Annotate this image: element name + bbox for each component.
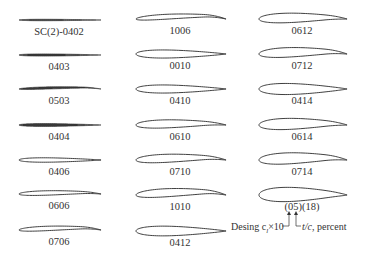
airfoil-label: 0010: [130, 60, 230, 71]
airfoil-label: 0710: [130, 166, 230, 177]
airfoil-outline: [19, 158, 101, 162]
airfoil-label: 0404: [9, 131, 109, 142]
airfoil-label: 0614: [252, 131, 352, 142]
airfoil-outline: [19, 54, 101, 56]
airfoil-label: 1010: [130, 201, 230, 212]
airfoil-outline: [136, 85, 226, 93]
thickness-suffix: , percent: [312, 221, 346, 232]
airfoil-label: (05)(18): [252, 201, 352, 212]
airfoil-label: 0403: [9, 61, 109, 72]
airfoil-outline: [259, 187, 347, 201]
airfoil-label: 0612: [252, 25, 352, 36]
airfoil-label: 0410: [130, 95, 230, 106]
thickness-ratio-text: t/c: [302, 221, 312, 232]
airfoil-outline: [19, 87, 101, 90]
airfoil-outline: [259, 13, 347, 23]
airfoil-outline: [136, 14, 226, 20]
airfoil-label: 0412: [130, 237, 230, 248]
airfoil-label: 0606: [9, 200, 109, 211]
airfoil-outline: [136, 120, 226, 128]
airfoil-label: SC(2)-0402: [9, 26, 109, 37]
airfoil-outline: [259, 83, 347, 94]
airfoil-outline: [136, 226, 226, 236]
airfoil-label: 1006: [130, 25, 230, 36]
airfoil-outline: [136, 189, 226, 198]
thickness-annotation: t/c, percent: [302, 221, 346, 232]
airfoil-outline: [259, 153, 347, 164]
airfoil-outline: [259, 48, 347, 58]
airfoil-label: 0712: [252, 60, 352, 71]
airfoil-label: 0714: [252, 166, 352, 177]
airfoil-label: 0406: [9, 166, 109, 177]
airfoil-label: 0610: [130, 131, 230, 142]
airfoil-label: 0503: [9, 95, 109, 106]
airfoil-outline: [19, 191, 101, 196]
design-cl-text: Desing c: [231, 221, 266, 232]
airfoil-outline: [19, 19, 101, 20]
airfoil-outline: [136, 50, 226, 58]
design-cl-suffix: ×10: [268, 221, 284, 232]
airfoil-outline: [19, 226, 101, 231]
airfoil-outline: [19, 124, 101, 127]
airfoil-label: 0706: [9, 236, 109, 247]
airfoil-label: 0414: [252, 95, 352, 106]
airfoil-outline: [259, 118, 347, 129]
airfoil-outline: [136, 154, 226, 163]
design-cl-annotation: Desing cl×10: [231, 221, 284, 235]
